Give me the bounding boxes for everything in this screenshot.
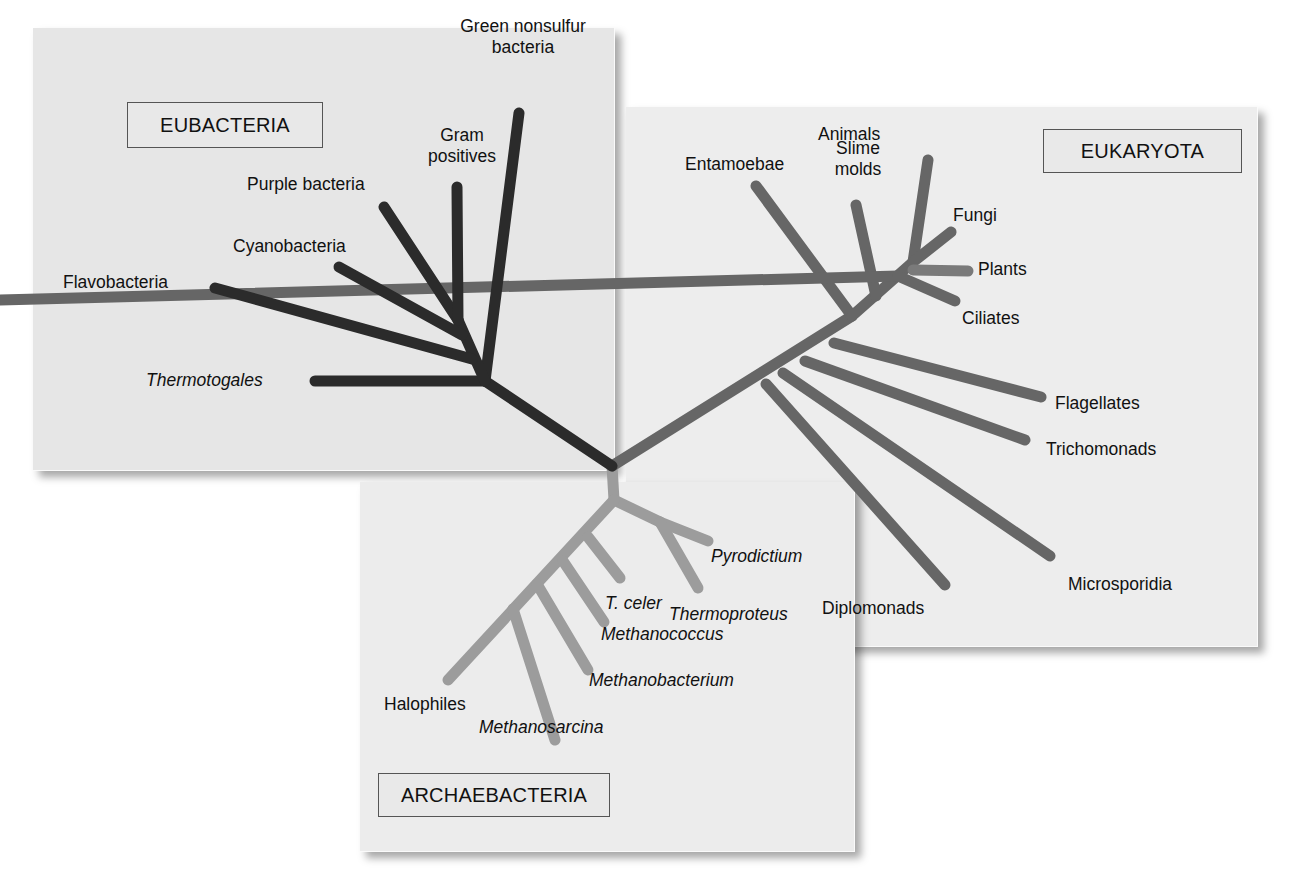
label-thermotogales: Thermotogales — [146, 370, 263, 391]
label-cyanobacteria: Cyanobacteria — [233, 236, 346, 257]
label-diplomonads: Diplomonads — [822, 598, 924, 619]
archaebacteria-title: ARCHAEBACTERIA — [401, 784, 587, 807]
label-green-nonsulfur-line2: bacteria — [438, 37, 608, 58]
label-entamoebae: Entamoebae — [685, 154, 784, 175]
label-flavobacteria: Flavobacteria — [63, 272, 168, 293]
label-halophiles: Halophiles — [384, 694, 466, 715]
eubacteria-title: EUBACTERIA — [160, 114, 290, 137]
label-green-nonsulfur-line1: Green nonsulfur — [438, 16, 608, 37]
label-t-celer: T. celer — [605, 593, 662, 614]
eukaryota-title-box: EUKARYOTA — [1043, 129, 1242, 173]
label-plants: Plants — [978, 259, 1027, 280]
label-green-nonsulfur: Green nonsulfur bacteria — [438, 16, 608, 58]
label-gram-positives-line2: positives — [412, 146, 512, 167]
label-methanobacterium: Methanobacterium — [589, 670, 734, 691]
label-pyrodictium: Pyrodictium — [711, 546, 802, 567]
label-ciliates: Ciliates — [962, 308, 1019, 329]
label-slime-molds-line2: molds — [822, 159, 894, 180]
label-flagellates: Flagellates — [1055, 393, 1140, 414]
label-methanosarcina: Methanosarcina — [479, 717, 604, 738]
archaebacteria-title-box: ARCHAEBACTERIA — [378, 773, 610, 817]
eukaryota-title: EUKARYOTA — [1081, 140, 1204, 163]
eubacteria-title-box: EUBACTERIA — [127, 102, 323, 148]
label-purple-bacteria: Purple bacteria — [247, 174, 365, 195]
label-thermoproteus: Thermoproteus — [669, 604, 788, 625]
label-gram-positives-line1: Gram — [412, 125, 512, 146]
label-fungi: Fungi — [953, 205, 997, 226]
label-microsporidia: Microsporidia — [1068, 574, 1172, 595]
label-trichomonads: Trichomonads — [1046, 439, 1156, 460]
label-methanococcus: Methanococcus — [601, 624, 724, 645]
label-animals: Animals — [818, 124, 880, 145]
label-gram-positives: Gram positives — [412, 125, 512, 167]
